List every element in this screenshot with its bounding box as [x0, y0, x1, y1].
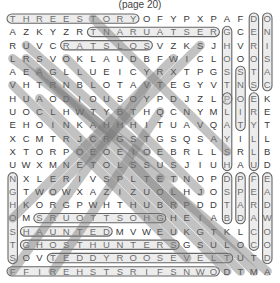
- grid-letter[interactable]: B: [113, 105, 126, 118]
- grid-letter[interactable]: V: [140, 78, 153, 91]
- grid-letter[interactable]: A: [33, 65, 46, 78]
- grid-letter[interactable]: U: [167, 118, 180, 131]
- grid-letter[interactable]: L: [247, 132, 260, 145]
- grid-letter[interactable]: H: [6, 92, 19, 105]
- grid-letter[interactable]: L: [6, 52, 19, 65]
- grid-letter[interactable]: T: [73, 225, 86, 238]
- grid-letter[interactable]: S: [6, 225, 19, 238]
- grid-letter[interactable]: A: [247, 211, 260, 224]
- grid-letter[interactable]: N: [60, 118, 73, 131]
- grid-letter[interactable]: O: [46, 238, 59, 251]
- grid-letter[interactable]: I: [33, 265, 46, 278]
- grid-letter[interactable]: X: [6, 132, 19, 145]
- grid-letter[interactable]: S: [6, 251, 19, 264]
- grid-letter[interactable]: T: [180, 65, 193, 78]
- grid-letter[interactable]: T: [220, 78, 233, 91]
- grid-letter[interactable]: O: [60, 52, 73, 65]
- grid-letter[interactable]: I: [193, 211, 206, 224]
- grid-letter[interactable]: T: [86, 211, 99, 224]
- grid-letter[interactable]: R: [247, 105, 260, 118]
- grid-letter[interactable]: A: [153, 25, 166, 38]
- grid-letter[interactable]: J: [73, 132, 86, 145]
- grid-letter[interactable]: A: [207, 132, 220, 145]
- grid-letter[interactable]: C: [234, 25, 247, 38]
- grid-letter[interactable]: X: [73, 185, 86, 198]
- grid-letter[interactable]: N: [113, 238, 126, 251]
- grid-letter[interactable]: U: [100, 238, 113, 251]
- grid-letter[interactable]: Q: [207, 118, 220, 131]
- grid-letter[interactable]: X: [167, 65, 180, 78]
- grid-letter[interactable]: O: [100, 145, 113, 158]
- grid-letter[interactable]: S: [33, 52, 46, 65]
- grid-letter[interactable]: L: [73, 65, 86, 78]
- grid-letter[interactable]: I: [260, 39, 273, 52]
- grid-letter[interactable]: A: [33, 225, 46, 238]
- grid-letter[interactable]: R: [6, 39, 19, 52]
- grid-letter[interactable]: S: [73, 12, 86, 25]
- grid-letter[interactable]: W: [60, 185, 73, 198]
- grid-letter[interactable]: R: [46, 198, 59, 211]
- grid-letter[interactable]: T: [113, 198, 126, 211]
- grid-letter[interactable]: Y: [167, 12, 180, 25]
- grid-letter[interactable]: P: [180, 198, 193, 211]
- grid-letter[interactable]: R: [46, 265, 59, 278]
- grid-letter[interactable]: F: [153, 52, 166, 65]
- grid-letter[interactable]: D: [247, 12, 260, 25]
- grid-letter[interactable]: N: [260, 25, 273, 38]
- grid-letter[interactable]: B: [153, 198, 166, 211]
- grid-letter[interactable]: U: [140, 25, 153, 38]
- grid-letter[interactable]: H: [167, 211, 180, 224]
- grid-letter[interactable]: D: [220, 265, 233, 278]
- grid-letter[interactable]: M: [247, 265, 260, 278]
- grid-letter[interactable]: U: [207, 238, 220, 251]
- grid-letter[interactable]: O: [73, 145, 86, 158]
- grid-letter[interactable]: T: [19, 145, 32, 158]
- grid-letter[interactable]: U: [167, 225, 180, 238]
- grid-letter[interactable]: S: [220, 185, 233, 198]
- grid-letter[interactable]: W: [260, 211, 273, 224]
- grid-letter[interactable]: O: [127, 92, 140, 105]
- grid-letter[interactable]: S: [234, 65, 247, 78]
- grid-letter[interactable]: T: [127, 238, 140, 251]
- grid-letter[interactable]: P: [73, 198, 86, 211]
- grid-letter[interactable]: O: [127, 211, 140, 224]
- grid-letter[interactable]: O: [140, 251, 153, 264]
- grid-letter[interactable]: S: [193, 39, 206, 52]
- grid-letter[interactable]: P: [153, 92, 166, 105]
- grid-letter[interactable]: C: [86, 132, 99, 145]
- grid-letter[interactable]: A: [234, 158, 247, 171]
- grid-letter[interactable]: O: [140, 145, 153, 158]
- grid-letter[interactable]: P: [207, 12, 220, 25]
- grid-letter[interactable]: P: [207, 172, 220, 185]
- grid-letter[interactable]: L: [86, 52, 99, 65]
- grid-letter[interactable]: O: [234, 52, 247, 65]
- grid-letter[interactable]: D: [260, 198, 273, 211]
- grid-letter[interactable]: M: [207, 105, 220, 118]
- grid-letter[interactable]: D: [127, 52, 140, 65]
- grid-letter[interactable]: V: [86, 172, 99, 185]
- grid-letter[interactable]: G: [207, 65, 220, 78]
- grid-letter[interactable]: K: [220, 225, 233, 238]
- grid-letter[interactable]: L: [86, 78, 99, 91]
- grid-letter[interactable]: I: [113, 185, 126, 198]
- grid-letter[interactable]: H: [180, 185, 193, 198]
- grid-letter[interactable]: E: [247, 185, 260, 198]
- grid-letter[interactable]: S: [220, 65, 233, 78]
- grid-letter[interactable]: H: [6, 198, 19, 211]
- grid-letter[interactable]: S: [140, 158, 153, 171]
- grid-letter[interactable]: V: [33, 251, 46, 264]
- grid-letter[interactable]: T: [234, 118, 247, 131]
- grid-letter[interactable]: Z: [60, 25, 73, 38]
- grid-letter[interactable]: R: [33, 12, 46, 25]
- grid-letter[interactable]: S: [113, 265, 126, 278]
- grid-letter[interactable]: T: [140, 132, 153, 145]
- grid-letter[interactable]: W: [73, 105, 86, 118]
- grid-letter[interactable]: A: [180, 118, 193, 131]
- grid-letter[interactable]: H: [19, 225, 32, 238]
- grid-letter[interactable]: I: [73, 172, 86, 185]
- grid-letter[interactable]: S: [260, 52, 273, 65]
- grid-letter[interactable]: G: [153, 211, 166, 224]
- grid-letter[interactable]: T: [153, 78, 166, 91]
- grid-letter[interactable]: K: [33, 25, 46, 38]
- grid-letter[interactable]: D: [167, 92, 180, 105]
